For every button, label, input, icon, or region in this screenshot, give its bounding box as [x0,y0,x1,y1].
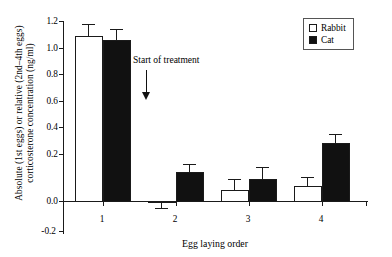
legend-item-cat[interactable]: Cat [309,34,346,46]
error-bar-cat-1 [116,29,117,40]
y-axis-title-line1: Absolute (1st eggs) or relative (2nd–4th… [14,0,25,228]
y-tick-label--0.2: -0.2 [30,227,56,236]
bar-chart-figure: Absolute (1st eggs) or relative (2nd–4th… [0,0,392,257]
error-bar-cap-cat-2 [183,164,196,165]
plot-area [63,18,368,234]
y-tick-label-0.2: 0.2 [32,150,58,159]
y-axis-tick [59,101,64,102]
y-tick-label-0.0: 0.0 [32,197,58,206]
y-axis-tick [59,74,64,75]
bar-cat-3[interactable] [249,179,277,202]
treatment-annotation-label: Start of treatment [133,55,199,65]
error-bar-cap-rabbit-1 [82,24,95,25]
error-bar-cap-cat-3 [256,167,269,168]
y-axis-title-line2: corticosterone concentration (ng/ml) [25,0,36,228]
error-bar-cat-2 [189,164,190,172]
legend-label-cat: Cat [321,35,334,45]
bar-rabbit-3[interactable] [221,190,249,202]
x-axis-tick [366,202,367,206]
filled-square-icon [309,36,317,44]
bar-rabbit-4[interactable] [294,186,322,202]
error-bar-rabbit-3 [234,179,235,190]
bar-cat-2[interactable] [176,172,204,202]
y-axis-tick [59,201,64,202]
y-tick-label-0.4: 0.4 [32,123,58,132]
error-bar-cat-3 [262,167,263,179]
bar-rabbit-1[interactable] [75,36,103,202]
y-axis-title: Absolute (1st eggs) or relative (2nd–4th… [14,0,48,228]
error-bar-cap-cat-1 [110,29,123,30]
down-arrow-icon-shaft [146,70,147,94]
x-axis-title: Egg laying order [62,238,368,249]
x-axis-tick [176,202,177,206]
x-axis-tick [103,202,104,206]
bar-cat-4[interactable] [322,143,350,202]
y-axis-tick [59,127,64,128]
y-axis-tick [59,48,64,49]
legend-item-rabbit[interactable]: Rabbit [309,22,346,34]
error-bar-cap-rabbit-4 [301,177,314,178]
bar-cat-1[interactable] [103,40,131,202]
x-axis-tick [249,202,250,206]
down-arrow-icon-head [142,92,150,100]
error-bar-rabbit-4 [307,177,308,186]
error-bar-cat-4 [335,134,336,143]
error-bar-cap-rabbit-3 [228,179,241,180]
y-tick-label-1.2: 1.2 [32,17,58,26]
error-bar-rabbit-1 [88,24,89,36]
y-tick-label-0.6: 0.6 [32,97,58,106]
y-axis-tick [59,154,64,155]
error-bar-cap-rabbit-2 [155,208,168,209]
y-tick-label-0.8: 0.8 [32,70,58,79]
error-bar-cap-cat-4 [329,134,342,135]
y-tick-label-1.0: 1.0 [32,44,58,53]
y-axis-tick [59,21,64,22]
y-axis-tick [59,231,64,232]
x-axis-tick [322,202,323,206]
open-square-icon [309,24,317,32]
legend-label-rabbit: Rabbit [321,23,346,33]
bar-rabbit-2[interactable] [148,201,176,203]
legend: Rabbit Cat [303,18,354,50]
